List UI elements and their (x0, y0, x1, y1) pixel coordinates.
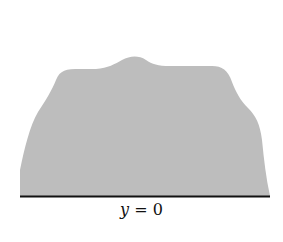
label-value: = 0 (129, 200, 163, 219)
label-variable: y (120, 200, 129, 219)
baseline-label: y = 0 (0, 200, 283, 219)
diagram-canvas: y = 0 (0, 0, 283, 242)
shaded-region (20, 57, 270, 196)
